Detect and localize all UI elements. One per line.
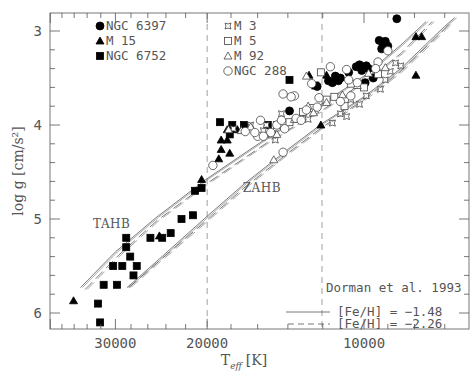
data-point xyxy=(384,47,392,55)
data-point xyxy=(353,79,361,87)
y-tick-label: 6 xyxy=(34,305,42,321)
data-point xyxy=(167,230,174,237)
model-curve-shadow xyxy=(129,18,457,288)
data-point xyxy=(178,216,185,223)
data-point xyxy=(189,212,196,219)
data-point xyxy=(344,76,352,84)
data-point xyxy=(398,63,404,69)
data-point xyxy=(198,184,205,191)
data-point xyxy=(371,64,379,72)
x-axis-label-unit: [K] xyxy=(246,352,267,368)
data-point xyxy=(326,63,334,71)
y-axis-label-text: log g [cm/s²] xyxy=(10,126,26,215)
hb-gravity-temperature-chart: 3456300002000010000 log g [cm/s²] Teff[K… xyxy=(0,0,475,376)
data-point xyxy=(279,90,287,98)
series-ngc-6752 xyxy=(95,76,319,326)
data-point xyxy=(329,120,335,126)
data-point xyxy=(336,97,344,105)
data-point xyxy=(198,176,206,183)
star-marker xyxy=(225,23,231,29)
data-point xyxy=(347,92,355,100)
data-point xyxy=(217,145,225,152)
data-point xyxy=(308,79,316,87)
star-marker xyxy=(377,86,383,92)
data-point xyxy=(352,63,360,71)
data-point xyxy=(130,272,137,279)
data-point xyxy=(113,281,120,288)
data-point xyxy=(305,116,311,122)
data-point xyxy=(159,234,166,241)
y-tick-label: 4 xyxy=(34,117,42,133)
star-marker xyxy=(305,116,311,122)
y-tick-label: 3 xyxy=(34,23,42,39)
x-tick-label: 20000 xyxy=(186,335,228,351)
data-point xyxy=(361,84,368,91)
zahb-annotation: ZAHB xyxy=(243,181,281,195)
model-legend-entry-dashed: [Fe/H] = −2.26 xyxy=(337,316,442,331)
data-point xyxy=(363,93,369,99)
legend-marker xyxy=(96,22,104,30)
legend-marker xyxy=(225,38,232,45)
svg-text:Teff[K]: Teff[K] xyxy=(221,352,267,371)
data-point xyxy=(133,263,140,270)
legend-marker xyxy=(224,52,232,59)
data-point xyxy=(251,128,259,136)
x-tick-label: 30000 xyxy=(94,335,136,351)
model-curve xyxy=(127,18,455,288)
data-point xyxy=(302,106,310,114)
star-marker xyxy=(398,63,404,69)
legend-cluster-filled: NGC 6397M 15NGC 6752 xyxy=(96,18,166,63)
legend-label: NGC 6752 xyxy=(106,48,166,63)
legend-marker xyxy=(97,53,104,60)
data-point xyxy=(147,234,154,241)
legend-label: M 92 xyxy=(234,48,264,63)
data-point xyxy=(287,93,295,101)
data-point xyxy=(279,148,287,156)
legend-label: M 15 xyxy=(106,33,136,48)
vertical-dashed-lines xyxy=(207,13,322,329)
legend-label: NGC 6397 xyxy=(106,18,166,33)
legend-marker xyxy=(96,37,104,44)
data-point xyxy=(315,94,323,102)
data-point xyxy=(280,125,288,133)
legend-marker xyxy=(225,23,231,29)
model-legend: Dorman et al. 1993 [Fe/H] = −1.48 [Fe/H]… xyxy=(286,280,461,331)
data-point xyxy=(313,103,321,111)
data-point xyxy=(192,187,199,194)
x-axis-label-sub: eff xyxy=(230,361,243,371)
star-marker xyxy=(329,120,335,126)
data-point xyxy=(337,111,343,117)
data-point xyxy=(317,69,324,76)
data-point xyxy=(418,33,426,40)
data-point xyxy=(357,101,363,107)
data-point xyxy=(100,281,107,288)
tahb-annotation: TAHB xyxy=(93,217,130,231)
model-legend-title: Dorman et al. 1993 xyxy=(326,280,461,295)
data-point xyxy=(216,119,223,126)
star-marker xyxy=(382,77,388,83)
star-marker xyxy=(357,101,363,107)
star-marker xyxy=(344,114,350,120)
data-point xyxy=(285,107,293,115)
data-point xyxy=(259,132,267,140)
legend-label: M 3 xyxy=(234,18,257,33)
legend-marker xyxy=(224,67,232,75)
data-point xyxy=(277,116,285,124)
legend-label: NGC 288 xyxy=(234,63,287,78)
data-point xyxy=(119,263,126,270)
data-point xyxy=(123,244,130,251)
data-point xyxy=(123,234,130,241)
data-point xyxy=(270,156,278,163)
data-point xyxy=(344,114,350,120)
data-point xyxy=(342,65,350,73)
legend-label: M 5 xyxy=(234,33,257,48)
legend-cluster-open: M 3M 5M 92NGC 288 xyxy=(224,18,287,78)
data-point xyxy=(95,300,102,307)
y-axis-label: log g [cm/s²] xyxy=(10,126,26,215)
data-point xyxy=(226,149,234,156)
star-marker xyxy=(337,111,343,117)
data-point xyxy=(110,263,117,270)
data-point xyxy=(241,127,249,135)
model-curve-shadow xyxy=(131,22,454,288)
data-point xyxy=(297,116,305,124)
